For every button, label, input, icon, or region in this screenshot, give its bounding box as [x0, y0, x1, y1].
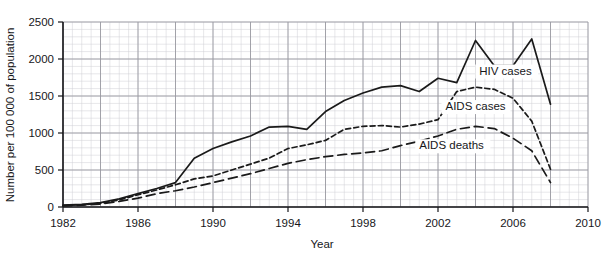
series-label-group: HIV cases — [475, 65, 538, 79]
y-tick-label: 500 — [35, 164, 54, 176]
y-tick-label: 1000 — [28, 127, 54, 139]
series-label-aids-deaths: AIDS deaths — [419, 139, 484, 151]
line-chart: 05001000150020002500 1982198619901994199… — [0, 0, 604, 260]
series-label-group: AIDS deaths — [415, 139, 490, 153]
x-axis-title: Year — [310, 238, 333, 250]
series-label-group: AIDS cases — [442, 100, 511, 114]
y-tick-label: 2500 — [28, 16, 54, 28]
x-tick-label: 2002 — [425, 217, 451, 229]
chart-container: 05001000150020002500 1982198619901994199… — [0, 0, 604, 260]
y-tick-label: 0 — [48, 201, 54, 213]
x-tick-label: 2010 — [575, 217, 601, 229]
x-tick-label: 1994 — [275, 217, 301, 229]
x-tick-label: 2006 — [500, 217, 526, 229]
x-tick-label: 1986 — [125, 217, 151, 229]
x-tick-label: 1998 — [350, 217, 376, 229]
series-label-aids-cases: AIDS cases — [446, 100, 506, 112]
series-label-hiv-cases: HIV cases — [479, 65, 532, 77]
x-tick-label: 1982 — [50, 217, 76, 229]
y-tick-label: 2000 — [28, 53, 54, 65]
x-tick-label: 1990 — [200, 217, 226, 229]
y-axis-title: Number per 100 000 of population — [4, 28, 16, 203]
y-tick-label: 1500 — [28, 90, 54, 102]
